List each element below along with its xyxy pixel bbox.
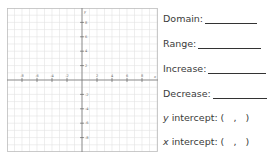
- svg-text:-8: -8: [85, 136, 89, 140]
- svg-text:-8: -8: [20, 74, 24, 78]
- coordinate-plane: -8-6-4-224688642-2-4-6-8xy: [7, 8, 158, 152]
- svg-text:8: 8: [141, 74, 143, 78]
- svg-text:-6: -6: [35, 74, 39, 78]
- increase-label: Increase:: [163, 63, 206, 74]
- svg-text:4: 4: [111, 74, 114, 78]
- domain-label: Domain:: [163, 13, 203, 24]
- svg-text:y: y: [83, 10, 87, 14]
- decrease-row: Decrease:: [163, 88, 267, 99]
- range-blank[interactable]: [198, 39, 261, 49]
- coordinate-grid: -8-6-4-224688642-2-4-6-8xy: [7, 8, 158, 152]
- range-label: Range:: [163, 38, 196, 49]
- range-row: Range:: [163, 38, 261, 49]
- svg-text:-2: -2: [85, 93, 89, 97]
- svg-text:2: 2: [85, 64, 87, 68]
- decrease-blank[interactable]: [213, 89, 267, 99]
- svg-text:x: x: [153, 75, 157, 79]
- x-intercept-label: intercept: ( , ): [169, 136, 250, 147]
- svg-text:2: 2: [96, 74, 98, 78]
- increase-row: Increase:: [163, 63, 266, 74]
- svg-text:6: 6: [85, 35, 87, 39]
- svg-text:6: 6: [126, 74, 128, 78]
- y-intercept-row: y intercept: ( , ): [163, 112, 249, 123]
- decrease-label: Decrease:: [163, 88, 211, 99]
- svg-text:8: 8: [85, 21, 87, 25]
- domain-blank[interactable]: [205, 14, 257, 24]
- svg-text:-2: -2: [65, 74, 69, 78]
- x-intercept-row: x intercept: ( , ): [163, 136, 249, 147]
- svg-text:-6: -6: [85, 121, 89, 125]
- svg-text:-4: -4: [50, 74, 54, 78]
- y-intercept-label: intercept: ( , ): [169, 112, 250, 123]
- domain-row: Domain:: [163, 13, 257, 24]
- increase-blank[interactable]: [208, 64, 266, 74]
